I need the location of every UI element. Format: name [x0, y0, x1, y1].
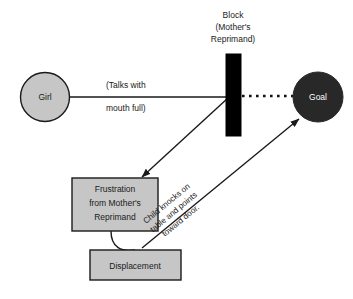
node-displacement-label: Displacement — [109, 261, 161, 271]
node-frustration-line2: from Mother's — [89, 198, 141, 208]
node-frustration-line1: Frustration — [95, 184, 136, 194]
edge-label-talks-line2: mouth full) — [106, 103, 146, 113]
diagram-svg: Girl Goal Block (Mother's Reprimand) (Ta… — [0, 0, 353, 299]
block-title-line2: (Mother's — [215, 22, 250, 32]
node-goal-label: Goal — [309, 92, 327, 102]
block-title-line3: Reprimand) — [211, 34, 256, 44]
edge-block-to-frustration — [142, 98, 228, 177]
edge-frustration-to-displacement — [111, 231, 135, 250]
node-girl-label: Girl — [38, 92, 51, 102]
node-frustration-line3: Reprimand — [94, 212, 136, 222]
edge-label-talks-line1: (Talks with — [106, 80, 146, 90]
block-title-line1: Block — [223, 10, 245, 20]
diagram-canvas: Girl Goal Block (Mother's Reprimand) (Ta… — [0, 0, 353, 299]
node-block[interactable] — [226, 54, 241, 136]
